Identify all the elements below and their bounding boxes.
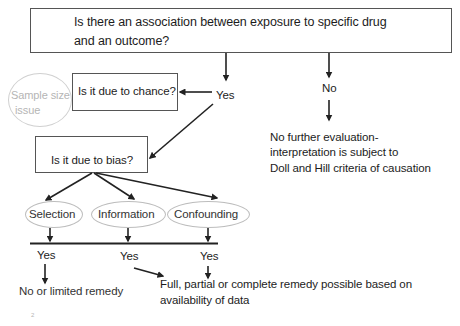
remedy-outcome-line1: Full, partial or complete remedy possibl…	[160, 277, 412, 292]
no-outcome-line2: interpretation is subject to	[270, 145, 398, 160]
association-question-line1: Is there an association between exposure…	[74, 15, 387, 30]
sample-size-note-line2: issue	[15, 103, 40, 118]
no-outcome-line1: No further evaluation-	[270, 130, 378, 145]
no-outcome-line3: Doll and Hill criteria of causation	[270, 161, 431, 176]
yes-label-information: Yes	[120, 249, 138, 264]
yes-label-confounding: Yes	[200, 249, 218, 264]
no-label: No	[322, 81, 337, 96]
remedy-outcome-line2: availability of data	[160, 293, 249, 308]
selection-outcome: No or limited remedy	[19, 284, 123, 299]
bias-type-selection: Selection	[29, 207, 75, 222]
flowchart-canvas: Is there an association between exposure…	[0, 0, 460, 326]
footer-mark: 2	[31, 311, 34, 319]
association-question-line2: and an outcome?	[74, 34, 169, 49]
yes-label-selection: Yes	[37, 248, 55, 263]
sample-size-note-line1: Sample size	[11, 88, 70, 103]
chance-question-text: Is it due to chance?	[78, 84, 176, 99]
bias-type-confounding: Confounding	[174, 207, 238, 222]
bias-type-information: Information	[98, 207, 154, 222]
yes-label-top: Yes	[216, 88, 234, 103]
bias-question-text: Is it due to bias?	[51, 153, 133, 168]
